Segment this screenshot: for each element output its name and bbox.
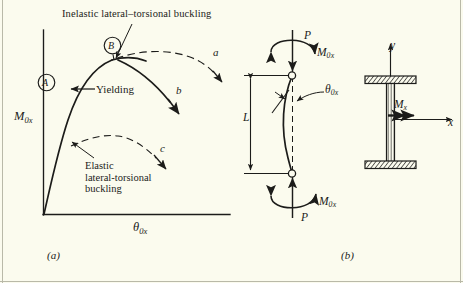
elastic-buckling-line-2: lateral-torsional: [85, 172, 151, 184]
section-moment-label: Mx: [394, 99, 407, 111]
section-y-axis-label: y: [390, 40, 395, 52]
bottom-pin-node: [288, 170, 295, 177]
rotation-subscript: 0x: [331, 88, 339, 97]
bottom-moment-symbol: M: [319, 195, 329, 207]
curve-label-b: b: [176, 85, 182, 96]
top-pin-node: [288, 72, 295, 79]
elastic-buckling-annotation: Elastic lateral-torsional buckling: [85, 160, 151, 195]
branch-b-arrow: [168, 99, 179, 114]
x-axis-subscript: 0x: [139, 226, 147, 236]
top-moment-subscript: 0x: [327, 51, 335, 60]
top-moment-symbol: M: [317, 46, 327, 58]
web: [387, 84, 395, 162]
panel-a-y-axis-label: M0x: [14, 110, 33, 123]
branch-b-curve: [118, 60, 170, 102]
y-axis-subscript: 0x: [24, 115, 32, 125]
y-axis-symbol: M: [14, 109, 24, 123]
bottom-moment-arc: [271, 194, 316, 208]
twist-tangent-arrow: [275, 92, 285, 99]
dimension-extension-lines: [244, 76, 292, 174]
branch-c-arrow: [154, 155, 166, 169]
top-flange: [365, 76, 416, 84]
elastic-buckling-line-3: buckling: [85, 183, 151, 195]
rotation-leader: [297, 92, 324, 101]
bottom-moment-label: M0x: [319, 196, 336, 208]
figure-page: Inelastic lateral–torsional buckling M0x…: [0, 0, 463, 283]
caption-b: (b): [341, 250, 354, 261]
panel-a-x-axis-label: θ0x: [133, 221, 148, 234]
bottom-moment-subscript: 0x: [329, 200, 337, 209]
top-axial-force-label: P: [304, 30, 311, 42]
deflected-beam-curve: [283, 76, 292, 173]
elastic-buckling-line-1: Elastic: [85, 160, 151, 172]
top-moment-label: M0x: [317, 47, 334, 59]
point-label-A: A: [42, 78, 48, 88]
curve-label-a: a: [213, 47, 219, 58]
length-label: L: [243, 112, 249, 124]
branch-a-arrow: [213, 71, 222, 82]
section-x-axis-label: x: [448, 117, 453, 129]
twist-tangent-line: [272, 90, 289, 113]
rotation-label: θ0x: [325, 84, 338, 96]
point-label-B: B: [108, 41, 114, 51]
elastic-buckling-leader: [72, 142, 94, 158]
branch-a-curve: [116, 52, 215, 74]
rotation-symbol: θ: [325, 83, 331, 95]
caption-a: (a): [47, 250, 60, 261]
yielding-annotation: Yielding: [96, 84, 134, 95]
title-leader-line: [116, 24, 132, 58]
section-moment-subscript: x: [404, 103, 408, 112]
section-moment-symbol: M: [394, 98, 404, 110]
inelastic-buckling-annotation: Inelastic lateral–torsional buckling: [62, 9, 211, 20]
curve-label-c: c: [160, 143, 165, 154]
branch-c-curve: [71, 135, 156, 158]
bottom-axial-force-label: P: [301, 212, 308, 224]
bottom-flange: [365, 161, 416, 169]
